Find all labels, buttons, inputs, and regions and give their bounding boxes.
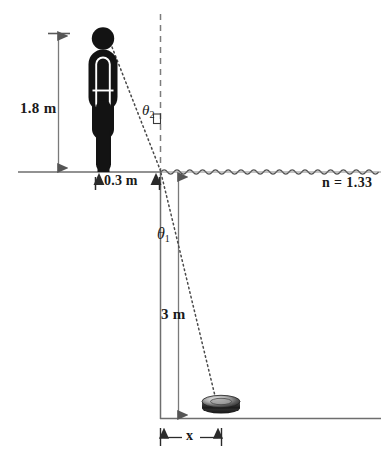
- coin-object: [202, 395, 240, 413]
- wavy-water-surface-line: [161, 170, 381, 174]
- label-theta-refracted: θ1: [157, 226, 170, 244]
- dotted-refracted-ray: [161, 173, 216, 400]
- label-person-height: 1.8 m: [20, 101, 57, 116]
- theta-refracted-symbol: θ: [157, 225, 165, 242]
- person-silhouette: [89, 27, 118, 172]
- label-refractive-index: n = 1.33: [322, 176, 372, 190]
- diagram-svg: [0, 0, 387, 457]
- label-horizontal-distance: x: [186, 429, 193, 443]
- right-angle-marker: [154, 114, 161, 124]
- theta-refracted-subscript: 1: [165, 233, 170, 244]
- label-water-depth: 3 m: [161, 307, 186, 322]
- label-theta-incident: θ2: [142, 103, 154, 120]
- diagram-canvas: 1.8 m 0.3 m n = 1.33 3 m x θ2 θ1: [0, 0, 387, 457]
- label-offset-from-edge: 0.3 m: [104, 174, 138, 188]
- theta-incident-subscript: 2: [149, 109, 154, 120]
